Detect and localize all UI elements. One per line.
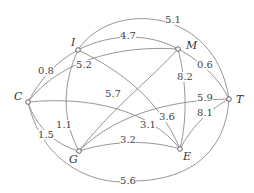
svg-text:4.7: 4.7 [120, 30, 136, 41]
edge-weight-G-T: 5.9 [197, 92, 213, 103]
node-M [176, 47, 181, 52]
edge-weight-G-E: 3.2 [120, 134, 136, 145]
node-label-T: T [236, 93, 245, 106]
node-label-G: G [69, 153, 78, 166]
svg-text:5.6: 5.6 [120, 175, 136, 186]
edge-weight-C-T: 5.6 [120, 175, 136, 186]
weighted-graph-diagram: 5.14.70.60.85.21.13.65.78.23.15.98.11.53… [0, 0, 254, 193]
node-C [26, 100, 31, 105]
edge-weight-I-G: 1.1 [56, 119, 72, 130]
node-I [76, 48, 81, 53]
svg-text:8.2: 8.2 [177, 71, 193, 82]
edge-weight-M-E: 8.2 [177, 71, 193, 82]
svg-text:3.2: 3.2 [120, 134, 136, 145]
svg-text:8.1: 8.1 [197, 107, 213, 118]
svg-text:3.6: 3.6 [159, 111, 175, 122]
edge-weight-I-E: 3.6 [159, 111, 175, 122]
node-label-C: C [14, 90, 23, 103]
svg-text:5.7: 5.7 [105, 88, 121, 99]
node-label-I: I [70, 36, 76, 49]
edge-weight-M-T: 0.6 [197, 59, 213, 70]
svg-text:0.8: 0.8 [38, 65, 54, 76]
edge-weight-G-M: 5.7 [105, 88, 121, 99]
edge-weight-C-G: 1.5 [38, 129, 54, 140]
edge-weight-C-E: 3.1 [140, 119, 156, 130]
svg-text:5.1: 5.1 [165, 14, 181, 25]
node-E [178, 147, 183, 152]
node-label-E: E [182, 150, 191, 163]
svg-text:0.6: 0.6 [197, 59, 213, 70]
edge-weight-E-T: 8.1 [197, 107, 213, 118]
svg-text:5.2: 5.2 [76, 59, 92, 70]
edge-M-E [178, 49, 185, 149]
node-T [227, 97, 232, 102]
edge-weight-C-I: 0.8 [38, 65, 54, 76]
svg-text:1.1: 1.1 [56, 119, 72, 130]
edge-weight-I-M: 4.7 [120, 30, 136, 41]
svg-text:5.9: 5.9 [197, 92, 213, 103]
svg-text:3.1: 3.1 [140, 119, 156, 130]
node-label-M: M [185, 39, 198, 52]
edge-weight-I-T: 5.1 [165, 14, 181, 25]
svg-text:1.5: 1.5 [38, 129, 54, 140]
edge-weight-C-M: 5.2 [76, 59, 92, 70]
